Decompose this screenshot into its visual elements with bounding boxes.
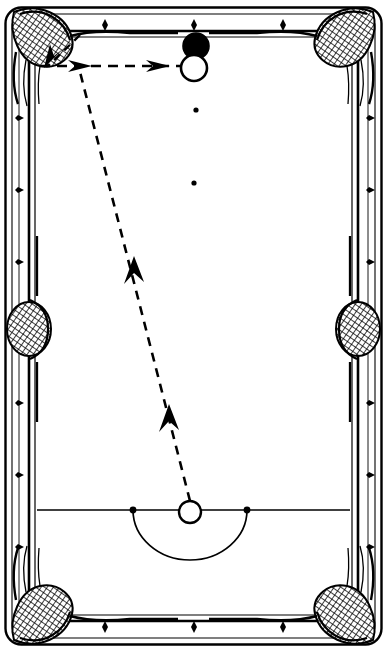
baulk-left-spot bbox=[130, 507, 137, 514]
diagram-canvas bbox=[0, 0, 387, 652]
cloth-edge bbox=[35, 37, 352, 615]
centre-spot bbox=[191, 180, 196, 185]
baulk-right-spot bbox=[244, 507, 251, 514]
table-frame bbox=[6, 8, 382, 645]
cue-ball-top bbox=[181, 55, 207, 81]
cue-ball-start bbox=[179, 501, 201, 523]
pink-spot bbox=[193, 107, 198, 112]
billiard-table-diagram bbox=[0, 0, 387, 652]
